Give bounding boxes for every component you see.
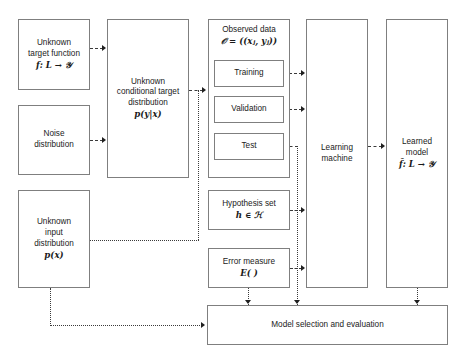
- arrowhead-validation-to-machine: [301, 106, 305, 112]
- conditional-line1: Unknown: [111, 77, 185, 88]
- noise-line1: Noise: [22, 129, 86, 140]
- input-distribution-formula: p(x): [22, 250, 86, 261]
- connector-machine-to-model: [368, 146, 382, 147]
- conditional-formula: p(y|x): [111, 109, 185, 120]
- connector-input-to-spine: [90, 240, 199, 241]
- box-conditional-distribution[interactable]: Unknown conditional target distribution …: [107, 19, 189, 178]
- arrowhead-training-to-machine: [301, 70, 305, 76]
- box-error-measure[interactable]: Error measure E( ): [208, 248, 290, 288]
- connector-input-down: [50, 288, 51, 326]
- connector-right-spine: [297, 146, 298, 305]
- arrowhead-error-to-modelselection: [245, 300, 251, 304]
- training-label: Training: [215, 68, 283, 79]
- arrowhead-error-to-machine: [301, 265, 305, 271]
- hypothesis-set-formula: h ∈ ℋ: [212, 210, 286, 221]
- box-learned-model[interactable]: Learned model f̂: 𝑳 → 𝒴: [386, 19, 448, 288]
- arrowhead-machine-to-model: [381, 143, 385, 149]
- model-selection-label: Model selection and evaluation: [208, 320, 447, 331]
- target-function-formula: f: 𝑳 → 𝒴: [22, 60, 86, 71]
- arrowhead-model-to-modelselection: [414, 300, 420, 304]
- arrowhead-target-to-conditional: [102, 45, 106, 51]
- learned-model-line1: Learned: [390, 137, 444, 148]
- arrowhead-rightspine-to-modelselection: [294, 300, 300, 304]
- box-input-distribution[interactable]: Unknown input distribution p(x): [18, 190, 90, 288]
- box-model-selection[interactable]: Model selection and evaluation: [207, 305, 448, 345]
- arrowhead-input-to-modelselection: [201, 322, 205, 328]
- arrowhead-noise-to-conditional: [102, 137, 106, 143]
- conditional-line2: conditional target: [111, 87, 185, 98]
- noise-line2: distribution: [22, 140, 86, 151]
- box-training-subset[interactable]: Training: [214, 60, 284, 87]
- observed-data-formula: 𝒪 = ((xⱼ, yⱼ)): [212, 36, 286, 47]
- observed-data-line1: Observed data: [212, 25, 286, 36]
- learning-machine-line1: Learning: [310, 143, 364, 154]
- conditional-line3: distribution: [111, 98, 185, 109]
- validation-label: Validation: [215, 104, 283, 115]
- learned-model-line2: model: [390, 148, 444, 159]
- box-noise-distribution[interactable]: Noise distribution: [18, 105, 90, 175]
- input-distribution-line2: input: [22, 228, 86, 239]
- arrowhead-hypothesis-to-machine: [301, 207, 305, 213]
- error-measure-line1: Error measure: [212, 257, 286, 268]
- hypothesis-set-line1: Hypothesis set: [212, 199, 286, 210]
- box-validation-subset[interactable]: Validation: [214, 96, 284, 123]
- learned-model-formula: f̂: 𝑳 → 𝒴: [390, 159, 444, 170]
- input-distribution-line3: distribution: [22, 239, 86, 250]
- arrowhead-conditional-to-observed: [202, 87, 206, 93]
- connector-input-to-modelselection: [50, 325, 202, 326]
- box-learning-machine[interactable]: Learning machine: [306, 19, 368, 288]
- target-function-line2: target function: [22, 49, 86, 60]
- diagram-canvas: Unknown target function f: 𝑳 → 𝒴 Noise d…: [0, 0, 462, 359]
- error-measure-formula: E( ): [212, 268, 286, 279]
- target-function-line1: Unknown: [22, 38, 86, 49]
- test-label: Test: [215, 141, 283, 152]
- connector-conditional-to-observed: [189, 90, 203, 91]
- box-test-subset[interactable]: Test: [214, 133, 284, 160]
- box-target-function[interactable]: Unknown target function f: 𝑳 → 𝒴: [18, 19, 90, 90]
- input-distribution-line1: Unknown: [22, 217, 86, 228]
- learning-machine-line2: machine: [310, 154, 364, 165]
- connector-left-spine: [198, 90, 199, 240]
- box-hypothesis-set[interactable]: Hypothesis set h ∈ ℋ: [208, 190, 290, 230]
